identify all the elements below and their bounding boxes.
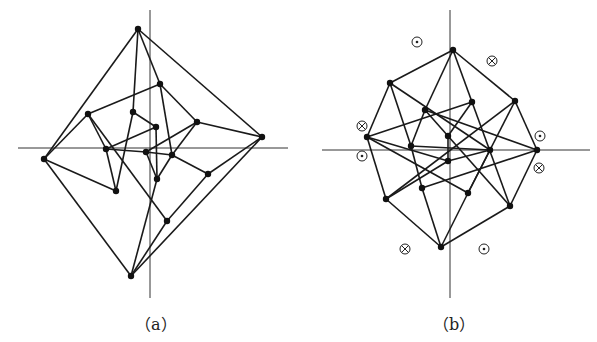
graph-node: [445, 133, 451, 139]
graph-edge: [390, 83, 490, 150]
graph-node: [445, 158, 451, 164]
graph-edge: [172, 155, 208, 174]
figure-canvas: [0, 0, 597, 342]
graph-edge: [44, 114, 88, 159]
graph-node: [534, 147, 540, 153]
graph-node: [128, 273, 134, 279]
graph-edge: [157, 155, 172, 179]
graph-node: [259, 134, 265, 140]
graph-edge: [131, 221, 167, 276]
graph-node: [465, 190, 471, 196]
caption-a: （a）: [135, 311, 177, 335]
graph-edge: [88, 84, 160, 114]
graph-edge: [367, 137, 448, 161]
graph-node: [364, 134, 370, 140]
graph-edge: [133, 112, 156, 127]
field-into-page-icon: [400, 244, 410, 254]
field-into-page-icon: [534, 163, 544, 173]
graph-edge: [172, 122, 197, 155]
field-out-of-page-icon: [412, 37, 422, 47]
graph-node: [408, 143, 414, 149]
graph-edge: [390, 83, 411, 146]
graph-edge: [133, 29, 138, 112]
graph-node: [387, 80, 393, 86]
field-out-of-page-icon: [479, 244, 489, 254]
graph-node: [164, 218, 170, 224]
graph-edge: [208, 137, 262, 174]
graph-node: [422, 107, 428, 113]
graph-node: [438, 244, 444, 250]
graph-edge: [167, 174, 208, 221]
diagram-a: [18, 10, 288, 298]
field-into-page-icon: [487, 56, 497, 66]
graph-node: [113, 188, 119, 194]
graph-node: [194, 119, 200, 125]
graph-edge: [367, 102, 472, 137]
field-into-page-icon: [357, 121, 367, 131]
graph-edge: [106, 149, 116, 191]
graph-node: [130, 109, 136, 115]
graph-edge: [106, 149, 146, 152]
graph-node: [487, 147, 493, 153]
field-out-of-page-icon: [357, 151, 367, 161]
graph-node: [169, 152, 175, 158]
graph-node: [157, 81, 163, 87]
graph-edge: [390, 50, 453, 83]
graph-node: [383, 196, 389, 202]
graph-node: [469, 99, 475, 105]
diagram-b: [322, 10, 590, 298]
graph-node: [154, 176, 160, 182]
graph-node: [143, 149, 149, 155]
graph-edge: [138, 29, 160, 84]
graph-node: [85, 111, 91, 117]
graph-edge: [106, 127, 156, 149]
graph-node: [103, 146, 109, 152]
graph-edge: [44, 159, 131, 276]
caption-b: （b）: [433, 311, 475, 335]
graph-node: [450, 47, 456, 53]
graph-edge: [138, 29, 262, 137]
graph-node: [153, 124, 159, 130]
graph-edge: [411, 110, 425, 146]
field-out-of-page-icon: [535, 131, 545, 141]
graph-node: [41, 156, 47, 162]
graph-node: [135, 26, 141, 32]
graph-edge: [44, 159, 116, 191]
graph-edge: [88, 114, 106, 149]
graph-node: [512, 98, 518, 104]
graph-node: [507, 203, 513, 209]
graph-node: [419, 185, 425, 191]
graph-edge: [146, 152, 157, 179]
graph-edge: [44, 29, 138, 159]
graph-edge: [425, 50, 453, 110]
graph-node: [205, 171, 211, 177]
graph-edge: [367, 83, 390, 137]
graph-edge: [131, 137, 262, 276]
